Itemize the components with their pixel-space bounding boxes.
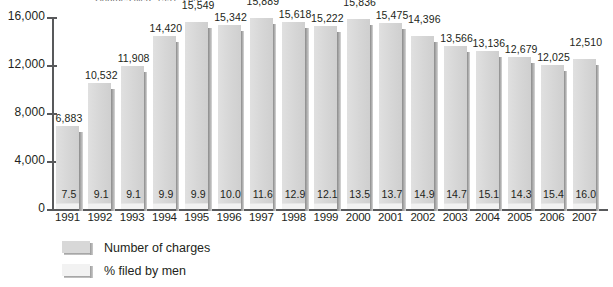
bar-shadow	[111, 89, 115, 211]
x-axis-label: 2000	[341, 211, 375, 223]
charges-swatch-icon	[62, 241, 93, 255]
bar-shadow	[305, 28, 309, 211]
bar-group: 11.615,889	[250, 18, 276, 209]
x-axis-label: 1993	[115, 211, 149, 223]
bars-container: 7.56,8839.110,5329.111,9089.914,4209.915…	[52, 17, 608, 209]
bar-percent-label: 9.9	[191, 188, 206, 200]
bar-group: 14.312,679	[508, 57, 534, 209]
bar-group: 9.915,549	[185, 22, 211, 209]
bar-percent-filed-by-men	[218, 203, 241, 209]
y-tick-label: 8,000	[14, 105, 45, 119]
bar-value-label: 15,889	[246, 0, 279, 7]
bar-number-of-charges	[347, 19, 370, 209]
bar-shadow	[79, 132, 83, 211]
bar-value-label: 13,136	[473, 37, 506, 49]
bar-group: 12.115,222	[314, 26, 340, 209]
bar-group: 9.111,908	[121, 66, 147, 209]
bar-group: 9.110,532	[88, 83, 114, 209]
bar-value-label: 12,679	[505, 43, 538, 55]
x-axis-label: 1999	[309, 211, 343, 223]
x-axis-label: 2007	[567, 211, 601, 223]
bar-percent-label: 9.1	[126, 188, 141, 200]
x-axis-label: 2003	[438, 211, 472, 223]
bar-percent-label: 14.7	[446, 188, 467, 200]
x-axis-label: 1992	[83, 211, 117, 223]
bar-number-of-charges	[411, 36, 434, 209]
bar-percent-label: 13.7	[382, 188, 403, 200]
plot-area: 04,0008,00012,00016,000 7.56,8839.110,53…	[52, 17, 608, 209]
bar-percent-label: 12.1	[317, 188, 338, 200]
legend-item-number-of-charges: Number of charges	[62, 238, 362, 257]
bar-value-label: 15,222	[311, 12, 344, 24]
bar-group: 15.412,025	[541, 65, 567, 209]
bar-group: 13.515,836	[347, 19, 373, 209]
legend-label-number-of-charges: Number of charges	[104, 241, 210, 255]
bar-percent-filed-by-men	[508, 203, 531, 209]
bar-group: 9.914,420	[153, 36, 179, 209]
bar-percent-filed-by-men	[121, 203, 144, 209]
bar-value-label: 12,025	[537, 51, 570, 63]
x-axis-label: 2006	[535, 211, 569, 223]
bar-value-label: 13,566	[440, 32, 473, 44]
bar-value-label: 15,836	[343, 0, 376, 8]
bar-number-of-charges	[508, 57, 531, 209]
bar-value-label: 12,510	[569, 36, 602, 48]
bar-number-of-charges	[573, 59, 596, 209]
bar-shadow	[337, 32, 341, 211]
x-axis-label: 1997	[244, 211, 278, 223]
bar-shadow	[144, 72, 148, 211]
bar-percent-label: 13.5	[349, 188, 370, 200]
bar-group: 14.713,566	[444, 46, 470, 209]
x-axis-label: 2002	[406, 211, 440, 223]
bar-shadow	[241, 31, 245, 211]
bar-percent-filed-by-men	[56, 203, 79, 209]
bar-number-of-charges	[379, 23, 402, 209]
bar-group: 13.715,475	[379, 23, 405, 209]
bar-percent-filed-by-men	[541, 203, 564, 209]
bar-value-label: 15,475	[376, 9, 409, 21]
y-tick-label: 12,000	[8, 57, 45, 71]
bar-value-label: 14,420	[150, 22, 183, 34]
bar-shadow	[176, 42, 180, 211]
bar-value-label: 14,396	[408, 13, 441, 25]
x-axis-label: 2005	[503, 211, 537, 223]
bar-percent-filed-by-men	[314, 203, 337, 209]
bar-percent-label: 9.1	[94, 188, 109, 200]
bar-percent-label: 12.9	[285, 188, 306, 200]
x-axis-labels: 1991199219931994199519961997199819992000…	[52, 211, 608, 227]
x-axis-label: 1994	[147, 211, 181, 223]
bar-percent-filed-by-men	[444, 203, 467, 209]
bar-percent-label: 9.9	[158, 188, 173, 200]
chart-legend: Number of charges % filed by men	[62, 238, 362, 284]
bar-shadow	[370, 25, 374, 211]
bar-percent-label: 14.3	[511, 188, 532, 200]
bar-percent-label: 15.4	[543, 188, 564, 200]
bar-percent-filed-by-men	[153, 203, 176, 209]
bar-group: 10.015,342	[218, 25, 244, 209]
bar-percent-label: 11.6	[253, 188, 273, 200]
bar-shadow	[273, 24, 277, 211]
bar-group: 14.914,396	[411, 36, 437, 209]
bar-percent-filed-by-men	[379, 203, 402, 209]
bar-number-of-charges	[476, 51, 499, 209]
bar-value-label: 15,618	[279, 8, 312, 20]
bar-percent-filed-by-men	[185, 203, 208, 209]
bar-percent-label: 10.0	[220, 188, 241, 200]
x-axis-label: 1998	[277, 211, 311, 223]
bar-percent-filed-by-men	[282, 203, 305, 209]
bar-number-of-charges	[282, 22, 305, 209]
bar-value-label: 15,342	[214, 11, 247, 23]
bar-value-label: 6,883	[56, 112, 83, 124]
bar-percent-filed-by-men	[476, 203, 499, 209]
bar-group: 12.915,618	[282, 22, 308, 209]
bar-percent-filed-by-men	[250, 203, 273, 209]
bar-number-of-charges	[218, 25, 241, 209]
x-axis-label: 1991	[51, 211, 85, 223]
bar-number-of-charges	[153, 36, 176, 209]
bar-percent-label: 16.0	[575, 188, 596, 200]
bar-number-of-charges	[444, 46, 467, 209]
bar-percent-filed-by-men	[573, 203, 596, 209]
bar-percent-label: 14.9	[414, 188, 435, 200]
bar-shadow	[402, 29, 406, 211]
legend-item-percent-filed-by-men: % filed by men	[62, 261, 362, 280]
